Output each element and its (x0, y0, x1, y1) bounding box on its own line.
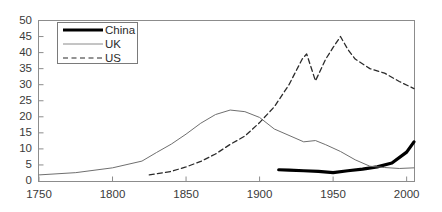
y-tick-label: 20 (2, 111, 32, 123)
legend-item-us: US (58, 51, 137, 65)
series-line-us (149, 37, 414, 175)
x-axis-ticks (39, 177, 407, 182)
y-tick-label: 25 (2, 95, 32, 107)
legend-label-uk: UK (105, 37, 121, 51)
y-tick-label: 0 (2, 175, 32, 187)
x-tick-label: 2000 (391, 189, 423, 201)
y-tick-label: 30 (2, 79, 32, 91)
y-tick-label: 35 (2, 63, 32, 75)
legend-label-us: US (105, 51, 121, 65)
x-tick-label: 1900 (244, 189, 276, 201)
legend-item-uk: UK (58, 37, 137, 51)
legend-swatch-china (61, 23, 105, 37)
x-tick-label: 1800 (97, 189, 129, 201)
x-tick-label: 1950 (317, 189, 349, 201)
legend-swatch-uk (61, 37, 105, 51)
series-line-uk (39, 110, 414, 175)
legend-label-china: China (105, 23, 135, 37)
chart-legend: China UK US (57, 22, 138, 64)
legend-swatch-us (61, 51, 105, 65)
y-tick-label: 15 (2, 127, 32, 139)
legend-item-china: China (58, 23, 137, 37)
y-tick-label: 45 (2, 31, 32, 43)
x-tick-label: 1850 (170, 189, 202, 201)
x-tick-label: 1750 (23, 189, 55, 201)
y-tick-label: 50 (2, 15, 32, 27)
y-axis-ticks (39, 37, 44, 165)
y-tick-label: 10 (2, 143, 32, 155)
y-tick-label: 40 (2, 47, 32, 59)
line-chart: 05101520253035404550 1750180018501900195… (0, 0, 442, 212)
y-tick-label: 5 (2, 159, 32, 171)
